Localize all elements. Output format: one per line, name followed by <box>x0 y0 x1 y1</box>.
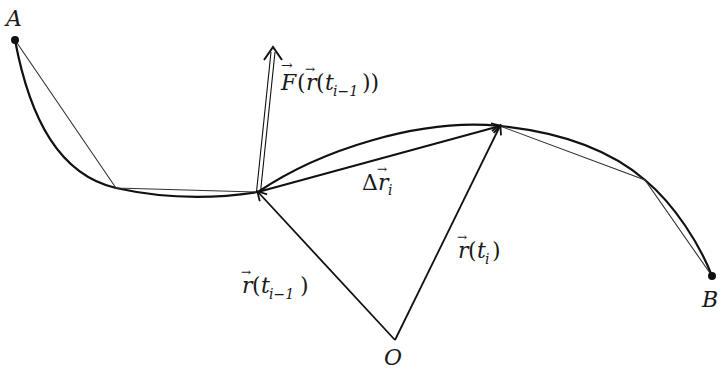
label-b: B <box>701 287 718 312</box>
svg-text:→: → <box>241 265 251 279</box>
svg-text:i−1: i−1 <box>269 286 294 302</box>
svg-text:(: ( <box>316 70 325 95</box>
svg-text:i: i <box>388 182 392 198</box>
label-force: F → ( r → ( t i−1 )) <box>280 57 379 99</box>
svg-text:→: → <box>457 230 467 244</box>
point-a-dot <box>11 36 19 44</box>
diagram-svg: A B O F → ( r → ( t i−1 )) Δ r → i r → (… <box>0 0 728 377</box>
chord-polyline-right <box>500 126 712 276</box>
label-delta-r: Δ r → i <box>362 162 392 198</box>
svg-text:→: → <box>305 62 315 76</box>
svg-text:Δ: Δ <box>362 170 378 195</box>
svg-text:→: → <box>377 162 387 176</box>
label-r-prev: r → ( t i−1 ) <box>241 265 309 302</box>
label-r-curr: r → ( t i ) <box>457 230 501 267</box>
label-o: O <box>384 345 402 370</box>
svg-text:(: ( <box>468 238 477 263</box>
r-curr-vector <box>395 126 500 340</box>
force-vector <box>257 47 283 192</box>
point-b-dot <box>708 272 716 280</box>
svg-text:→: → <box>281 57 293 73</box>
chord-polyline <box>15 40 258 192</box>
svg-text:): ) <box>492 238 501 263</box>
svg-text:(: ( <box>252 273 261 298</box>
svg-text:i: i <box>485 251 489 267</box>
label-a: A <box>4 6 22 31</box>
r-prev-vector <box>258 192 395 340</box>
diagram-canvas: A B O F → ( r → ( t i−1 )) Δ r → i r → (… <box>0 0 728 377</box>
svg-text:)): )) <box>362 70 379 95</box>
svg-text:i−1: i−1 <box>333 83 358 99</box>
svg-text:): ) <box>300 273 309 298</box>
svg-text:F: F <box>280 70 297 95</box>
